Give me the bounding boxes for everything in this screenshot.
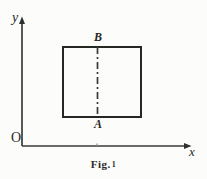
caption-prefix: Fig.: [91, 158, 111, 170]
y-axis: [19, 17, 25, 147]
point-label-b: B: [94, 31, 102, 43]
rectangle-shape: [63, 47, 141, 117]
y-axis-arrow-icon: [19, 17, 25, 25]
point-label-a: A: [94, 118, 102, 130]
x-axis-label: x: [189, 145, 195, 158]
y-axis-label: y: [12, 11, 18, 25]
figure-container: y x O B A Fig.1: [0, 0, 207, 179]
origin-label: O: [11, 131, 21, 145]
figure-drawing: [0, 0, 207, 179]
caption-number: 1: [111, 160, 117, 169]
x-axis: [22, 143, 192, 149]
figure-caption: Fig.1: [0, 158, 207, 170]
